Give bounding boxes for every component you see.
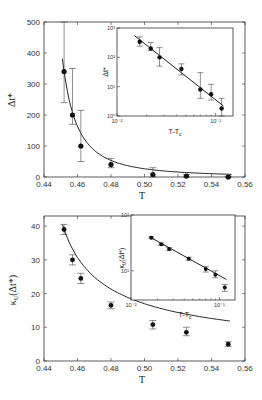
y-tick-label: 40 [31,222,40,231]
data-point [184,173,189,178]
y-tick-label: 400 [27,49,41,58]
data-point [149,46,153,50]
data-point [167,247,171,251]
data-point [198,87,202,91]
inset-y-tick-label: 10⁰ [107,113,116,119]
x-tick-label: 0.54 [204,180,220,189]
top-x-axis-label: T [139,190,145,201]
top-inset-background [117,28,233,116]
figure: 0.440.460.480.500.520.540.56 01002003004… [0,0,262,400]
y-tick-label: 0 [36,173,41,182]
x-tick-label: 0.48 [103,364,119,373]
data-point [223,286,227,290]
x-tick-label: 0.54 [204,364,220,373]
data-point [226,342,231,347]
x-tick-label: 0.48 [103,180,119,189]
y-tick-label: 0 [36,357,41,366]
y-tick-label: 10 [31,323,40,332]
data-point [184,330,189,335]
data-point [187,257,191,261]
data-point [150,322,155,327]
top-inset-xlabel-sub: c [179,131,182,137]
bottom-x-axis-label: T [139,374,145,385]
inset-y-tick-label: 10² [107,54,115,60]
bottom-ylabel-arg: (Δt*) [7,275,19,296]
inset-x-tick-label: 10⁻¹ [214,302,225,308]
top-y-axis-label: Δt* [6,93,17,107]
data-point [226,174,231,179]
data-point [78,276,83,281]
y-tick-label: 500 [27,18,41,27]
data-point [219,106,223,110]
bottom-inset-background [131,215,235,300]
x-tick-label: 0.46 [70,180,86,189]
inset-y-tick-label: 10² [121,212,129,218]
x-tick-label: 0.56 [237,364,253,373]
bottom-inset-y-axis-label: κU(Δt*) [118,248,127,269]
top-inset-chart: 10⁻²10⁻¹ 10⁰10¹10²10³ T-Tc Δt* [102,25,233,137]
y-tick-label: 100 [27,142,41,151]
y-tick-label: 20 [31,290,40,299]
data-point [70,112,75,117]
data-point [149,236,153,240]
data-point [78,143,83,148]
inset-y-tick-label: 10¹ [107,84,115,90]
x-tick-label: 0.56 [237,180,253,189]
inset-x-tick-label: 10⁻¹ [210,118,221,124]
data-point [138,40,142,44]
data-point [157,55,161,59]
y-tick-label: 300 [27,80,41,89]
data-point [209,92,213,96]
x-tick-label: 0.50 [137,364,153,373]
bottom-inset-chart: 10⁻²10⁻¹ 10¹10² T-Tc κU(Δt*) [118,212,235,320]
bottom-y-axis-label: κU(Δt*) [7,275,19,305]
data-point [109,303,114,308]
top-inset-y-axis-label: Δt* [102,67,109,77]
data-point [213,273,217,277]
data-point [179,67,183,71]
x-tick-label: 0.46 [70,364,86,373]
top-inset-x-axis-label: T-Tc [169,128,183,137]
data-point [159,242,163,246]
data-point [62,227,67,232]
inset-y-tick-label: 10³ [107,25,115,31]
x-tick-label: 0.52 [170,364,186,373]
y-tick-label: 30 [31,256,40,265]
x-tick-label: 0.52 [170,180,186,189]
inset-x-tick-label: 10⁻² [126,302,137,308]
data-point [62,69,67,74]
data-point [70,257,75,262]
data-point [108,162,113,167]
data-point [204,267,208,271]
bottom-inset-x-axis-label: T-Tc [179,311,193,320]
data-point [150,172,155,177]
x-tick-label: 0.50 [137,180,153,189]
y-tick-label: 200 [27,111,41,120]
bottom-inset-ylabel-arg: (Δt*) [118,248,126,262]
